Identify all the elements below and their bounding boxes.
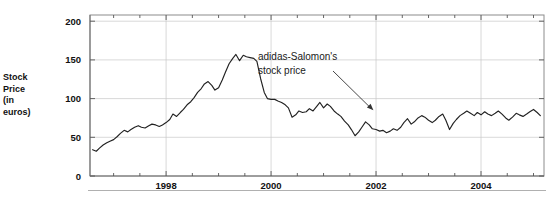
bottom-rule xyxy=(88,190,546,191)
y-tick-label: 200 xyxy=(65,16,81,27)
annotation-line-1: adidas-Salomon's xyxy=(258,51,337,62)
stock-price-line xyxy=(93,54,541,151)
y-tick-label: 150 xyxy=(65,54,81,65)
stock-price-chart-figure: Stock Price (in euros) 050100150200 1998… xyxy=(0,0,556,198)
plot-frame xyxy=(90,15,544,176)
y-axis-tick-labels: 050100150200 xyxy=(65,16,81,182)
horizontal-gridlines xyxy=(90,21,544,137)
x-axis-tickmarks xyxy=(114,15,534,176)
series-path xyxy=(93,54,541,151)
annotation-arrow xyxy=(333,71,373,110)
plot-area: 050100150200 1998200020022004 adidas-Sal… xyxy=(0,0,556,198)
y-tick-label: 50 xyxy=(70,132,81,143)
y-tick-label: 0 xyxy=(76,171,81,182)
y-tick-label: 100 xyxy=(65,93,81,104)
annotation-line-2: stock price xyxy=(258,65,306,76)
vertical-gridlines xyxy=(166,15,481,176)
